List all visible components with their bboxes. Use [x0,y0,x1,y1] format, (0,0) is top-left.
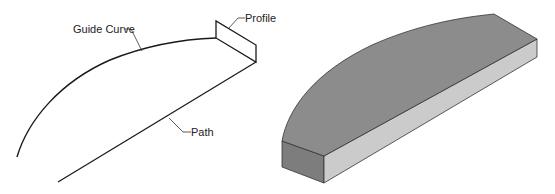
profile-leader [229,18,245,28]
guide-curve [17,38,216,157]
profile-shape [216,21,256,62]
profile-label: Profile [245,12,276,24]
wireframe-figure: Guide Curve Profile Path [17,12,276,182]
path-label: Path [191,126,214,138]
guide-curve-label: Guide Curve [73,23,135,35]
path-leader [169,118,191,132]
top-face [282,14,537,156]
path-line [58,62,256,182]
swept-solid-figure [282,14,537,183]
sweep-diagram: Guide Curve Profile Path [0,0,555,194]
